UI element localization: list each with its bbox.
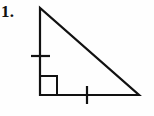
figure-container: 1.: [0, 0, 154, 116]
right-triangle-diagram: [0, 0, 154, 116]
triangle-outline: [40, 8, 139, 95]
right-angle-square-icon: [40, 76, 57, 95]
